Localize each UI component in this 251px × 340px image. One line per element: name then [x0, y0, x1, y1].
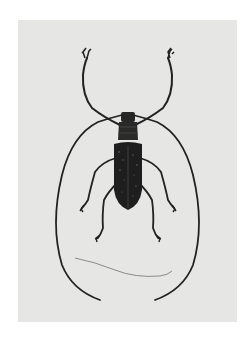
loose-hair	[75, 258, 172, 276]
hind-tarsi	[95, 235, 161, 242]
beetle-body	[114, 112, 142, 210]
beetle-illustration	[0, 0, 251, 340]
front-tarsi	[82, 48, 174, 58]
